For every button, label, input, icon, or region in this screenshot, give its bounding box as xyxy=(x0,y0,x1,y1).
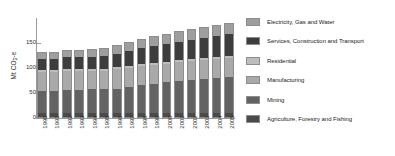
bar-segment xyxy=(113,46,121,54)
stacked-bar[interactable] xyxy=(87,49,97,118)
bar-segment xyxy=(163,64,171,83)
stacked-bar[interactable] xyxy=(149,36,159,118)
x-axis-tick-label: 1991 xyxy=(54,115,60,128)
bar-column[interactable] xyxy=(37,18,47,118)
bar-segment xyxy=(100,56,108,69)
x-axis-tick-label: 1995 xyxy=(104,115,110,128)
bar-column[interactable] xyxy=(224,18,234,118)
bar-segment xyxy=(138,85,146,112)
bar-segment xyxy=(225,58,233,78)
x-axis-tick-label: 2004 xyxy=(217,115,223,128)
bar-segment xyxy=(225,34,233,56)
bar-segment xyxy=(225,24,233,35)
legend-item[interactable]: Agriculture, Forestry and Fishing xyxy=(246,110,394,130)
y-axis-tick-label: 150 xyxy=(26,39,36,45)
stacked-bar[interactable] xyxy=(99,48,109,119)
bar-segment xyxy=(163,44,171,62)
x-axis-label-slot: 1990 xyxy=(37,120,47,154)
stacked-bar[interactable] xyxy=(112,45,122,118)
legend-item[interactable]: Mining xyxy=(246,90,394,110)
stacked-bar[interactable] xyxy=(199,27,209,118)
stacked-bar[interactable] xyxy=(124,42,134,118)
legend-item-label: Manufacturing xyxy=(267,77,304,83)
bar-segment xyxy=(213,26,221,37)
bar-column[interactable] xyxy=(62,18,72,118)
y-axis-label-main: Mt CO xyxy=(10,60,17,79)
bar-segment xyxy=(188,80,196,112)
bar-segment xyxy=(200,28,208,38)
bar-segment xyxy=(150,65,158,84)
legend-item-label: Residential xyxy=(267,58,296,64)
stacked-bar[interactable] xyxy=(174,31,184,118)
x-axis-tick-label: 1992 xyxy=(67,115,73,128)
stacked-bar[interactable] xyxy=(37,52,47,118)
legend-item[interactable]: Electricity, Gas and Water xyxy=(246,12,394,32)
bar-column[interactable] xyxy=(212,18,222,118)
y-axis-tick-label: 100 xyxy=(26,64,36,70)
bar-segment xyxy=(163,35,171,45)
bar-column[interactable] xyxy=(124,18,134,118)
bar-column[interactable] xyxy=(174,18,184,118)
legend-item[interactable]: Residential xyxy=(246,51,394,71)
bar-segment xyxy=(113,89,121,113)
bar-segment xyxy=(50,91,58,113)
stacked-bar[interactable] xyxy=(62,50,72,118)
x-axis-tick-label: 1997 xyxy=(129,115,135,128)
bar-column[interactable] xyxy=(99,18,109,118)
bar-segment xyxy=(213,36,221,57)
bar-segment xyxy=(113,69,121,88)
bar-segment xyxy=(138,48,146,64)
bar-column[interactable] xyxy=(74,18,84,118)
chart-legend: Electricity, Gas and WaterServices, Cons… xyxy=(246,12,394,129)
x-axis-label-slot: 2000 xyxy=(162,120,172,154)
bar-column[interactable] xyxy=(112,18,122,118)
bar-segment xyxy=(188,30,196,40)
bar-segment xyxy=(38,72,46,91)
legend-color-swatch xyxy=(246,96,260,104)
x-axis-tick-label: 1993 xyxy=(79,115,85,128)
x-axis-label-slot: 1992 xyxy=(62,120,72,154)
x-axis-label-slot: 1998 xyxy=(137,120,147,154)
x-axis-tick-label: 1999 xyxy=(154,115,160,128)
bar-column[interactable] xyxy=(149,18,159,118)
legend-color-swatch xyxy=(246,18,260,26)
y-axis-tick-label: 50 xyxy=(29,89,36,95)
bar-segment xyxy=(75,71,83,90)
x-axis-label-slot: 1991 xyxy=(49,120,59,154)
plot-area: 050100150 xyxy=(36,18,234,118)
stacked-bar[interactable] xyxy=(49,52,59,118)
stacked-bar[interactable] xyxy=(137,39,147,119)
legend-item-label: Mining xyxy=(267,97,284,103)
x-axis-tick-label: 1998 xyxy=(142,115,148,128)
stacked-bar[interactable] xyxy=(212,25,222,119)
bar-column[interactable] xyxy=(87,18,97,118)
bar-column[interactable] xyxy=(187,18,197,118)
legend-item[interactable]: Manufacturing xyxy=(246,71,394,91)
y-axis-tick-label: 0 xyxy=(33,114,36,120)
legend-item[interactable]: Services, Construction and Transport xyxy=(246,32,394,52)
x-axis-label-slot: 1993 xyxy=(74,120,84,154)
bar-segment xyxy=(125,87,133,112)
legend-item-label: Services, Construction and Transport xyxy=(267,38,364,44)
bar-segment xyxy=(38,59,46,70)
stacked-bar[interactable] xyxy=(224,23,234,119)
stacked-bar[interactable] xyxy=(162,34,172,119)
stacked-bar[interactable] xyxy=(74,50,84,118)
bar-column[interactable] xyxy=(162,18,172,118)
bar-segment xyxy=(125,51,133,66)
bar-segment xyxy=(188,61,196,80)
legend-color-swatch xyxy=(246,37,260,45)
bar-segment xyxy=(175,81,183,113)
bar-column[interactable] xyxy=(137,18,147,118)
bar-column[interactable] xyxy=(199,18,209,118)
legend-color-swatch xyxy=(246,76,260,84)
stacked-bar[interactable] xyxy=(187,29,197,118)
bar-segment xyxy=(175,62,183,81)
bar-segment xyxy=(50,72,58,91)
bar-segment xyxy=(150,46,158,63)
x-axis-label-slot: 1994 xyxy=(87,120,97,154)
bar-column[interactable] xyxy=(49,18,59,118)
bar-segment xyxy=(175,42,183,61)
x-axis-tick-label: 1996 xyxy=(117,115,123,128)
bar-segment xyxy=(88,57,96,69)
